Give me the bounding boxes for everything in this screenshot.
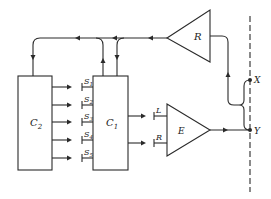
svg-text:S2: S2 xyxy=(84,95,93,105)
svg-text:R: R xyxy=(155,133,162,142)
e-output xyxy=(210,128,250,133)
c1-block: C1 xyxy=(93,76,128,170)
svg-text:S5: S5 xyxy=(84,148,93,158)
switch-s2: S2 xyxy=(52,95,93,109)
point-x-label: X xyxy=(253,75,261,85)
e-amplifier: E xyxy=(167,104,210,156)
r-amplifier-label: R xyxy=(193,31,202,42)
e-amplifier-label: E xyxy=(177,126,185,136)
e-input-l: L xyxy=(128,106,167,120)
svg-text:L: L xyxy=(155,106,161,115)
xy-brace xyxy=(239,80,250,130)
e-input-r: R xyxy=(128,133,167,147)
svg-text:S3: S3 xyxy=(84,112,93,122)
switch-s5: S5 xyxy=(52,148,93,162)
svg-text:S1: S1 xyxy=(84,77,93,87)
point-y-label: Y xyxy=(254,126,261,136)
r-amplifier: R xyxy=(167,10,210,62)
point-x-dot xyxy=(248,78,252,82)
c2-block: C2 xyxy=(18,76,52,170)
svg-text:S4: S4 xyxy=(84,130,93,140)
switch-s3: S3 xyxy=(52,112,93,126)
switch-s4: S4 xyxy=(52,130,93,144)
feedback-bus xyxy=(31,36,168,77)
switch-s1: S1 xyxy=(52,77,93,91)
r-input-path xyxy=(210,36,239,105)
block-diagram: R X Y C2 C1 S1 S2 S xyxy=(0,0,271,199)
